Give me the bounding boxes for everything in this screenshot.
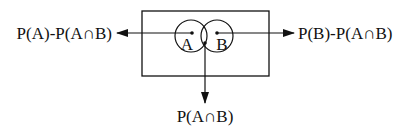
set-a-label: A xyxy=(181,35,194,54)
set-b-label: B xyxy=(216,35,227,54)
venn-diagram: A B P(A)-P(A∩B) P(B)-P(A∩B) P(A∩B) xyxy=(0,0,407,132)
intersection-label: P(A∩B) xyxy=(177,107,234,126)
b-only-label: P(B)-P(A∩B) xyxy=(298,24,392,43)
a-only-label: P(A)-P(A∩B) xyxy=(17,24,112,43)
